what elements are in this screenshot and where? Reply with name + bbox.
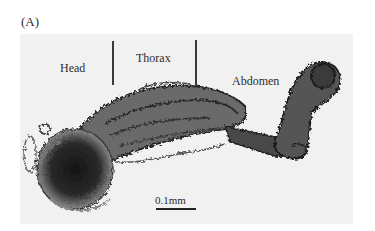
panel-label: (A) xyxy=(21,14,39,30)
region-label-head: Head xyxy=(60,61,85,76)
region-label-thorax: Thorax xyxy=(136,51,171,66)
micrograph-image: Head Thorax Abdomen xyxy=(20,34,353,224)
divider-thorax-abdomen xyxy=(195,40,197,86)
divider-head-thorax xyxy=(112,41,114,85)
scale-bar-line xyxy=(156,208,196,210)
region-label-abdomen: Abdomen xyxy=(232,74,279,89)
scale-bar-label: 0.1mm xyxy=(155,194,186,206)
